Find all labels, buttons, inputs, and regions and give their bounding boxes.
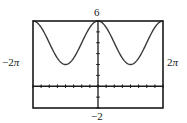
- graph-window: [0, 0, 187, 123]
- axes: [33, 21, 163, 108]
